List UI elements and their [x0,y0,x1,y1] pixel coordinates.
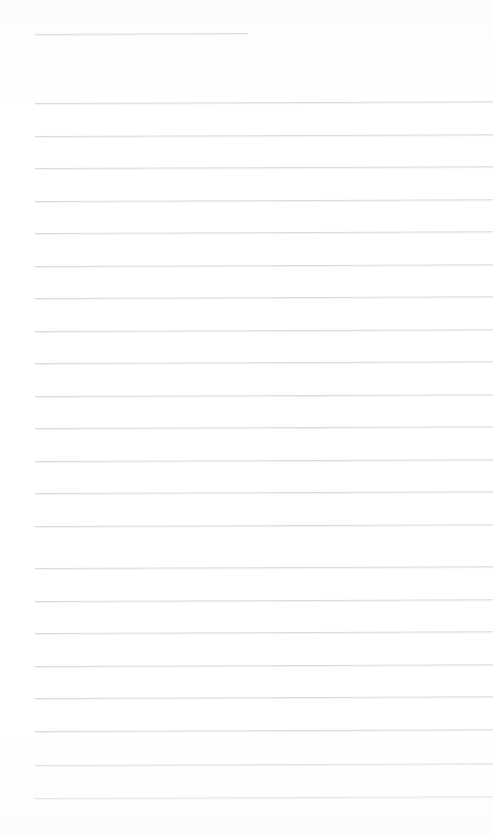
ruled-line [35,134,493,137]
ruled-line [35,459,493,462]
ruled-line [35,664,493,667]
ruled-line [35,199,493,202]
heading-rule [35,33,248,35]
ruled-line [35,361,493,364]
ruled-line [35,729,493,732]
ruled-line [35,329,493,332]
ruled-line [35,763,493,766]
ruled-line [35,426,493,429]
ruled-line [35,524,493,527]
ruled-line [35,264,493,267]
ruled-line [35,631,493,634]
ruled-line [35,231,493,234]
ruled-line [35,796,493,799]
ruled-line [35,296,493,299]
ruled-line [35,566,493,569]
ruled-writing-area[interactable] [0,0,493,836]
ruled-line [35,394,493,397]
ruled-line [35,599,493,602]
notebook-page [0,0,493,836]
ruled-line [35,166,493,169]
ruled-line [35,491,493,494]
ruled-line [35,696,493,699]
ruled-line [35,101,493,104]
